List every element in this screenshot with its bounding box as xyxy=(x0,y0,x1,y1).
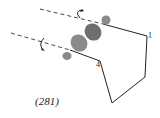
small-upper-lobe xyxy=(102,16,111,25)
diagram-canvas xyxy=(0,0,160,118)
orbital-diagram: 1 4 (281) xyxy=(0,0,160,118)
upper-dashed-axis xyxy=(40,9,103,24)
small-lower-lobe xyxy=(63,52,72,60)
atom-label-1: 1 xyxy=(148,31,152,40)
lower-rotation-arrow-icon xyxy=(41,38,44,50)
figure-caption: (281) xyxy=(35,95,59,107)
atom-label-4: 4 xyxy=(96,60,100,69)
lower-dashed-axis xyxy=(11,33,70,50)
